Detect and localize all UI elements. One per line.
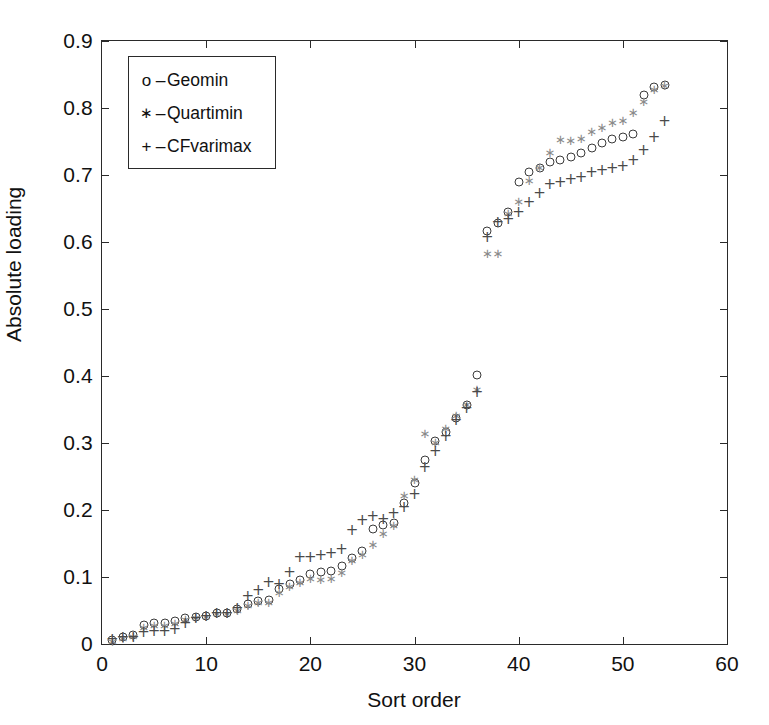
data-point-cfvarimax: + (648, 129, 661, 144)
data-point-cfvarimax: + (294, 549, 307, 564)
data-point-geomin (337, 561, 346, 570)
data-point-quartimin: ∗ (409, 472, 420, 485)
data-point-geomin (327, 566, 336, 575)
data-point-cfvarimax: + (658, 114, 671, 129)
data-point-geomin (389, 519, 398, 528)
legend-dash: – (154, 136, 167, 157)
data-point-geomin (410, 478, 419, 487)
data-point-quartimin: ∗ (107, 634, 118, 647)
data-point-quartimin: ∗ (284, 580, 295, 593)
data-point-geomin (129, 630, 138, 639)
data-point-cfvarimax: + (575, 170, 588, 185)
data-point-quartimin: ∗ (263, 595, 274, 608)
circle-marker-icon: o (139, 72, 154, 89)
data-point-quartimin: ∗ (326, 571, 337, 584)
data-point-cfvarimax: + (377, 512, 390, 527)
data-point-geomin (608, 135, 617, 144)
data-point-quartimin: ∗ (253, 596, 264, 609)
legend-label-geomin: Geomin (167, 70, 228, 91)
data-point-cfvarimax: + (606, 161, 619, 176)
data-point-geomin (598, 138, 607, 147)
data-point-quartimin: ∗ (628, 106, 639, 119)
legend-label-quartimin: Quartimin (167, 103, 243, 124)
data-point-geomin (660, 80, 669, 89)
y-tick-label: 0.4 (63, 364, 93, 388)
data-point-quartimin: ∗ (586, 124, 597, 137)
data-point-geomin (358, 546, 367, 555)
data-point-quartimin: ∗ (419, 426, 430, 439)
data-point-quartimin: ∗ (305, 572, 316, 585)
plus-marker-icon: + (139, 138, 154, 155)
data-point-quartimin: ∗ (472, 382, 483, 395)
y-axis-title: Absolute loading (2, 187, 26, 342)
data-point-quartimin: ∗ (649, 83, 660, 96)
data-point-cfvarimax: + (398, 500, 411, 515)
data-point-cfvarimax: + (544, 176, 557, 191)
data-point-cfvarimax: + (481, 229, 494, 244)
data-point-cfvarimax: + (367, 509, 380, 524)
data-point-quartimin: ∗ (294, 576, 305, 589)
data-point-quartimin: ∗ (461, 398, 472, 411)
data-point-geomin (535, 164, 544, 173)
data-point-cfvarimax: + (429, 444, 442, 459)
data-point-quartimin: ∗ (201, 609, 212, 622)
data-point-geomin (181, 613, 190, 622)
data-point-cfvarimax: + (169, 621, 182, 636)
legend-dash: – (154, 70, 167, 91)
data-point-geomin (202, 611, 211, 620)
data-point-geomin (212, 609, 221, 618)
data-point-geomin (441, 427, 450, 436)
data-point-cfvarimax: + (419, 460, 432, 475)
data-point-geomin (223, 608, 232, 617)
legend-entry-geomin: o – Geomin (139, 64, 275, 97)
x-tick-label: 50 (611, 652, 634, 676)
data-point-cfvarimax: + (492, 214, 505, 229)
data-point-geomin (566, 152, 575, 161)
data-point-geomin (556, 156, 565, 165)
data-point-geomin (108, 635, 117, 644)
legend-dash: – (154, 103, 167, 124)
data-point-quartimin: ∗ (534, 160, 545, 173)
data-point-quartimin: ∗ (555, 132, 566, 145)
data-point-geomin (462, 400, 471, 409)
data-point-cfvarimax: + (231, 601, 244, 616)
data-point-quartimin: ∗ (367, 538, 378, 551)
data-point-quartimin: ∗ (503, 207, 514, 220)
data-point-cfvarimax: + (179, 616, 192, 631)
data-point-cfvarimax: + (408, 486, 421, 501)
data-point-quartimin: ∗ (565, 134, 576, 147)
data-point-cfvarimax: + (617, 158, 630, 173)
data-point-cfvarimax: + (439, 428, 452, 443)
data-point-cfvarimax: + (242, 589, 255, 604)
data-point-quartimin: ∗ (659, 78, 670, 91)
data-point-cfvarimax: + (273, 576, 286, 591)
data-point-geomin (514, 177, 523, 186)
data-point-cfvarimax: + (637, 142, 650, 157)
data-point-quartimin: ∗ (492, 246, 503, 259)
data-point-quartimin: ∗ (399, 489, 410, 502)
data-point-geomin (160, 619, 169, 628)
data-point-quartimin: ∗ (180, 613, 191, 626)
y-tick-label: 0.9 (63, 29, 93, 53)
data-point-quartimin: ∗ (190, 611, 201, 624)
data-point-quartimin: ∗ (169, 617, 180, 630)
data-point-geomin (285, 579, 294, 588)
data-point-cfvarimax: + (450, 413, 463, 428)
data-point-geomin (233, 605, 242, 614)
data-point-geomin (618, 132, 627, 141)
data-point-cfvarimax: + (252, 583, 265, 598)
star-marker-icon: ∗ (139, 105, 154, 120)
data-point-geomin (493, 219, 502, 228)
data-point-geomin (473, 370, 482, 379)
data-point-quartimin: ∗ (597, 120, 608, 133)
data-point-cfvarimax: + (137, 624, 150, 639)
data-point-geomin (545, 157, 554, 166)
x-tick-label: 30 (403, 652, 426, 676)
legend-entry-quartimin: ∗ – Quartimin (139, 97, 275, 130)
y-tick-label: 0.6 (63, 230, 93, 254)
data-point-quartimin: ∗ (378, 527, 389, 540)
data-point-quartimin: ∗ (524, 174, 535, 187)
data-point-cfvarimax: + (585, 165, 598, 180)
chart-legend: o – Geomin ∗ – Quartimin + – CFvarimax (128, 56, 276, 169)
data-point-geomin (118, 633, 127, 642)
